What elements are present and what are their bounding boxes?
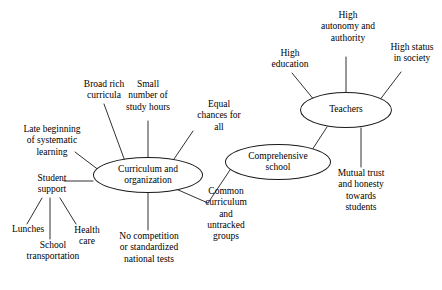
leaf-student-support[interactable]: Student support	[22, 173, 82, 196]
edge-teachers-to-high-status-in-society	[379, 72, 401, 101]
leaf-mutual-trust-and-honesty-towards-students[interactable]: Mutual trust and honesty towards student…	[325, 168, 397, 213]
edge-comprehensive-school-to-teachers	[312, 127, 327, 150]
node-comprehensive-school-label: Comprehensive school	[244, 151, 312, 174]
edge-curriculum-to-equal-chances-for-all	[172, 131, 193, 162]
leaf-high-education[interactable]: High education	[259, 48, 321, 71]
leaf-health-care[interactable]: Health care	[65, 225, 109, 248]
concept-map-diagram: Curriculum and organization Comprehensiv…	[0, 0, 442, 290]
node-comprehensive-school[interactable]: Comprehensive school	[225, 144, 331, 180]
leaf-high-status-in-society[interactable]: High status in society	[382, 42, 442, 65]
leaf-no-competition-or-standardized-national-tests[interactable]: No competition or standardized national …	[105, 231, 193, 265]
leaf-common-curriculum-and-untracked-groups[interactable]: Common curriculum and untracked groups	[192, 186, 260, 242]
node-curriculum-and-organization-label: Curriculum and organization	[114, 164, 182, 187]
leaf-equal-chances-for-all[interactable]: Equal chances for all	[182, 99, 256, 133]
edge-student-support-to-lunches	[27, 198, 42, 224]
leaf-high-autonomy-and-authority[interactable]: High autonomy and authority	[310, 10, 386, 44]
node-curriculum-and-organization[interactable]: Curriculum and organization	[93, 157, 203, 193]
node-teachers-label: Teachers	[325, 104, 367, 116]
leaf-small-number-of-study-hours[interactable]: Small number of study hours	[112, 79, 184, 113]
leaf-lunches[interactable]: Lunches	[2, 224, 54, 235]
edge-curriculum-to-broad-rich-curricula	[104, 104, 126, 164]
leaf-late-beginning-of-systematic-learning[interactable]: Late beginning of systematic learning	[4, 124, 100, 158]
node-teachers[interactable]: Teachers	[300, 92, 392, 128]
edge-student-support-to-health-care	[60, 198, 76, 224]
